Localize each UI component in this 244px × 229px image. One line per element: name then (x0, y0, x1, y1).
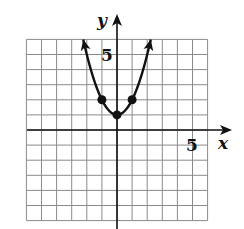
data-point (97, 95, 106, 104)
axes (27, 14, 232, 229)
data-point (128, 95, 137, 104)
y-tick-label: 5 (101, 45, 113, 65)
y-axis-label: y (96, 10, 108, 30)
graph: y x 5 5 (0, 0, 244, 229)
data-point (113, 110, 122, 119)
x-tick-label: 5 (186, 135, 198, 155)
x-axis-label: x (217, 133, 229, 153)
